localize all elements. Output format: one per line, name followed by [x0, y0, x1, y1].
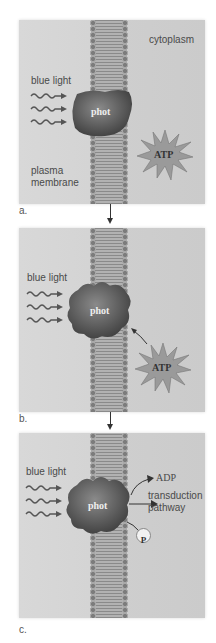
- atp-label: ATP: [152, 362, 171, 374]
- light-wave-icon: [31, 92, 67, 132]
- atp-label: ATP: [154, 149, 173, 161]
- transduction-pathway-label: transduction pathway: [148, 490, 202, 514]
- panel-b: blue light phot ATP: [19, 228, 205, 412]
- arrow-a-to-b: [110, 204, 111, 220]
- plasma-membrane-label: plasma membrane: [31, 165, 79, 189]
- arrow-b-to-c: [110, 412, 111, 426]
- phot-label: phot: [90, 305, 109, 317]
- panel-b-label: b.: [19, 413, 27, 424]
- phosphate-label: P: [141, 535, 147, 545]
- blue-light-label: blue light: [26, 466, 66, 478]
- panel-c-label: c.: [19, 624, 27, 635]
- phosphate-icon: P: [136, 528, 151, 543]
- light-wave-icon: [26, 484, 62, 524]
- blue-light-label: blue light: [27, 272, 67, 284]
- panel-a-label: a.: [19, 205, 27, 216]
- light-wave-icon: [27, 290, 63, 330]
- phot-label: phot: [91, 106, 110, 118]
- panel-c: blue light phot ADP transduction pathway…: [19, 433, 205, 618]
- panel-a: cytoplasm blue light phot ATP plasma mem…: [19, 20, 205, 204]
- adp-label: ADP: [156, 472, 176, 484]
- cytoplasm-label: cytoplasm: [149, 34, 194, 46]
- blue-light-label: blue light: [31, 75, 71, 87]
- phot-label: phot: [88, 500, 107, 512]
